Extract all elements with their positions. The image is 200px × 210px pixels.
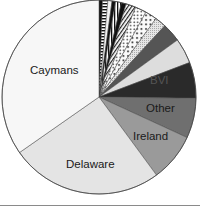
bottom-divider (0, 205, 200, 206)
label-bvi: BVI (150, 74, 169, 86)
pie-chart: Caymans Delaware Ireland Other BVI (0, 0, 200, 200)
label-other: Other (146, 102, 175, 114)
label-caymans: Caymans (30, 64, 79, 76)
label-delaware: Delaware (66, 158, 115, 170)
label-ireland: Ireland (133, 130, 168, 142)
